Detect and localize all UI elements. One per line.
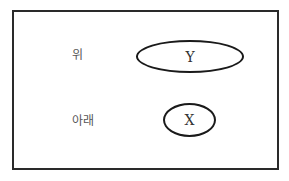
node-y-ellipse: Y <box>136 40 244 73</box>
lower-label: 아래 <box>72 114 94 128</box>
node-x-ellipse: X <box>163 103 216 137</box>
upper-label: 위 <box>72 48 83 62</box>
diagram-frame <box>12 10 279 170</box>
node-x-label: X <box>185 112 195 128</box>
node-y-label: Y <box>185 49 194 65</box>
